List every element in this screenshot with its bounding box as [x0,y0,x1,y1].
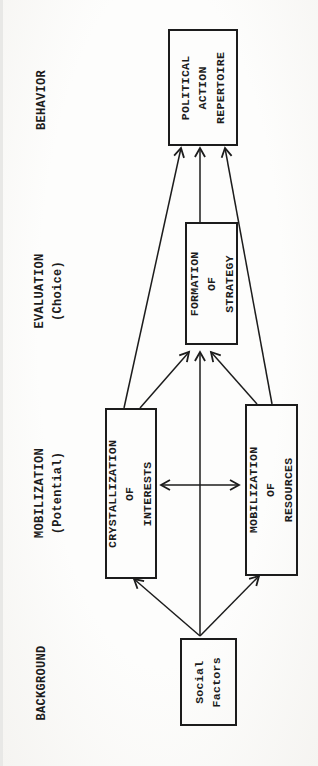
node-social-factors-label: Social Factors [191,657,226,707]
stage-label-mobilization-text: MOBILIZATION (Potential) [31,447,67,537]
stage-label-background: BACKGROUND [17,640,67,725]
stage-label-evaluation: EVALUATION (Choice) [19,241,79,341]
stage-label-mobilization: MOBILIZATION (Potential) [19,430,79,555]
node-political-action-repertoire-label: POLITICAL ACTION REPERTOIRE [177,51,229,123]
node-formation-of-strategy-label: FORMATION OF STRATEGY [185,251,237,316]
edge-social-to-crystallization [134,579,200,636]
stage-label-behavior: BEHAVIOR [17,55,67,145]
node-mobilization-of-resources-label: MOBILIZATION OF RESOURCES [245,447,297,533]
node-political-action-repertoire: POLITICAL ACTION REPERTOIRE [168,29,238,146]
stage-label-evaluation-text: EVALUATION (Choice) [31,253,67,328]
node-social-factors: Social Factors [180,638,237,726]
node-crystallization-of-interests: CRYSTALLIZATION OF INTERESTS [105,408,157,579]
stage-label-background-text: BACKGROUND [33,645,51,720]
edge-crystallization-to-political-action [124,148,181,408]
node-mobilization-of-resources: MOBILIZATION OF RESOURCES [245,404,298,576]
edge-mobilization-to-formation [211,352,257,404]
edge-crystallization-to-formation [140,352,189,408]
stage-label-behavior-text: BEHAVIOR [33,70,51,130]
edge-social-to-mobilization [200,576,259,636]
node-crystallization-of-interests-label: CRYSTALLIZATION OF INTERESTS [105,439,157,547]
node-formation-of-strategy: FORMATION OF STRATEGY [185,222,238,345]
scanned-flow-diagram: BEHAVIOR EVALUATION (Choice) MOBILIZATIO… [3,0,318,766]
